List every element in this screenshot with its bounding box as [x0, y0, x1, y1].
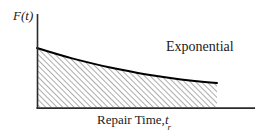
x-axis-label-text: Repair Time, [97, 112, 165, 127]
series-annotation-exponential: Exponential [166, 40, 234, 54]
y-axis-label: F(t) [13, 9, 33, 22]
x-axis-label-subscript: r [168, 122, 172, 132]
x-axis-label: Repair Time,tr [0, 113, 269, 130]
exponential-repair-time-figure: F(t) Exponential Repair Time,tr [0, 0, 269, 132]
